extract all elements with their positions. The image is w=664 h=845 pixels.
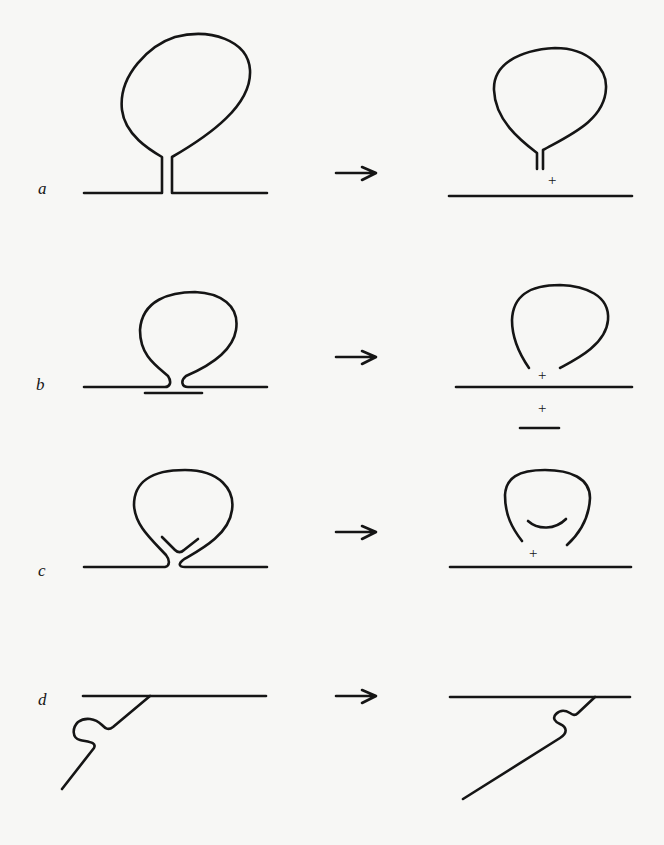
- filament-with-s-bend: [62, 696, 150, 789]
- arrow-icon: [336, 167, 376, 180]
- plus-mark: +: [538, 367, 546, 383]
- panel-label-d: d: [38, 690, 47, 709]
- membrane-with-vesicle: [84, 470, 267, 567]
- inner-arc: [528, 519, 566, 528]
- arrow-d: [336, 690, 376, 703]
- panel-c-right: +: [450, 470, 631, 567]
- panel-d: d: [38, 690, 630, 799]
- panel-label-a: a: [38, 179, 47, 198]
- plus-mark: +: [538, 400, 546, 416]
- panel-a-left: [84, 34, 267, 193]
- arrow-b: [336, 351, 376, 364]
- panel-b-left: [84, 292, 267, 393]
- plus-mark: +: [548, 172, 556, 188]
- panel-label-c: c: [38, 561, 46, 580]
- arrow-icon: [336, 351, 376, 364]
- open-vesicle: [505, 470, 590, 545]
- inner-v-neck: [162, 537, 198, 552]
- membrane-line: [84, 34, 267, 193]
- arrow-a: [336, 167, 376, 180]
- panel-d-left: [62, 696, 266, 789]
- arrow-icon: [336, 690, 376, 703]
- open-vesicle: [512, 285, 608, 368]
- panel-c: c +: [38, 470, 631, 580]
- filament-with-s-bend: [463, 697, 595, 799]
- panel-b-right: + +: [456, 285, 632, 428]
- panel-a: a +: [38, 34, 632, 198]
- panel-c-left: [84, 470, 267, 567]
- diagram-canvas: a + b + + c: [0, 0, 664, 845]
- panel-b: b + +: [36, 285, 632, 428]
- arrow-icon: [336, 526, 376, 539]
- membrane-with-vesicle: [84, 292, 267, 387]
- plus-mark: +: [529, 545, 537, 561]
- arrow-c: [336, 526, 376, 539]
- vesicle: [494, 48, 606, 169]
- panel-d-right: [450, 697, 630, 799]
- panel-a-right: +: [449, 48, 632, 196]
- panel-label-b: b: [36, 375, 45, 394]
